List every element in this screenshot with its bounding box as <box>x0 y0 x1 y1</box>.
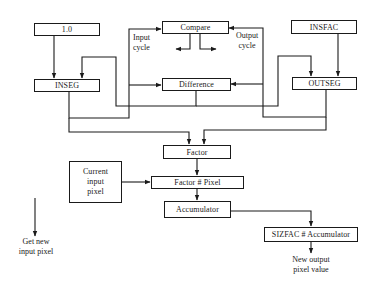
node-inseg: INSEG <box>34 79 100 92</box>
current-pixel-line2: input <box>87 177 104 187</box>
node-factor: Factor <box>163 145 231 159</box>
node-current-input-pixel: Current input pixel <box>69 161 122 203</box>
current-pixel-line3: pixel <box>87 187 104 197</box>
node-difference: Difference <box>162 78 231 91</box>
node-one: 1.0 <box>34 23 100 36</box>
output-cycle-line2: cycle <box>231 41 263 51</box>
node-insfac: INSFAC <box>291 20 357 34</box>
label-input-cycle: Input cycle <box>133 33 163 53</box>
node-outseg: OUTSEG <box>292 77 357 90</box>
input-cycle-line1: Input <box>133 33 163 43</box>
edge-accumulator-to-sizfac <box>231 211 311 226</box>
current-pixel-line1: Current <box>83 167 108 177</box>
node-sizfac-accumulator: SIZFAC # Accumulator <box>264 227 358 242</box>
get-new-line1: Get new <box>12 237 60 247</box>
label-new-output-pixel-value: New output pixel value <box>285 255 337 275</box>
label-output-cycle: Output cycle <box>231 31 263 51</box>
node-factor-pixel: Factor # Pixel <box>151 176 244 189</box>
edge-inseg-to-factor <box>69 118 189 144</box>
label-get-new-input-pixel: Get new input pixel <box>12 237 60 257</box>
new-output-line1: New output <box>285 255 337 265</box>
edge-compare-branch-right <box>200 34 216 49</box>
node-accumulator: Accumulator <box>164 201 231 218</box>
edge-compare-branch-left <box>176 34 190 49</box>
input-cycle-line2: cycle <box>133 43 163 53</box>
edge-outseg-to-factor <box>204 117 326 144</box>
new-output-line2: pixel value <box>285 265 337 275</box>
output-cycle-line1: Output <box>231 31 263 41</box>
get-new-line2: input pixel <box>12 247 60 257</box>
node-compare: Compare <box>162 21 229 34</box>
